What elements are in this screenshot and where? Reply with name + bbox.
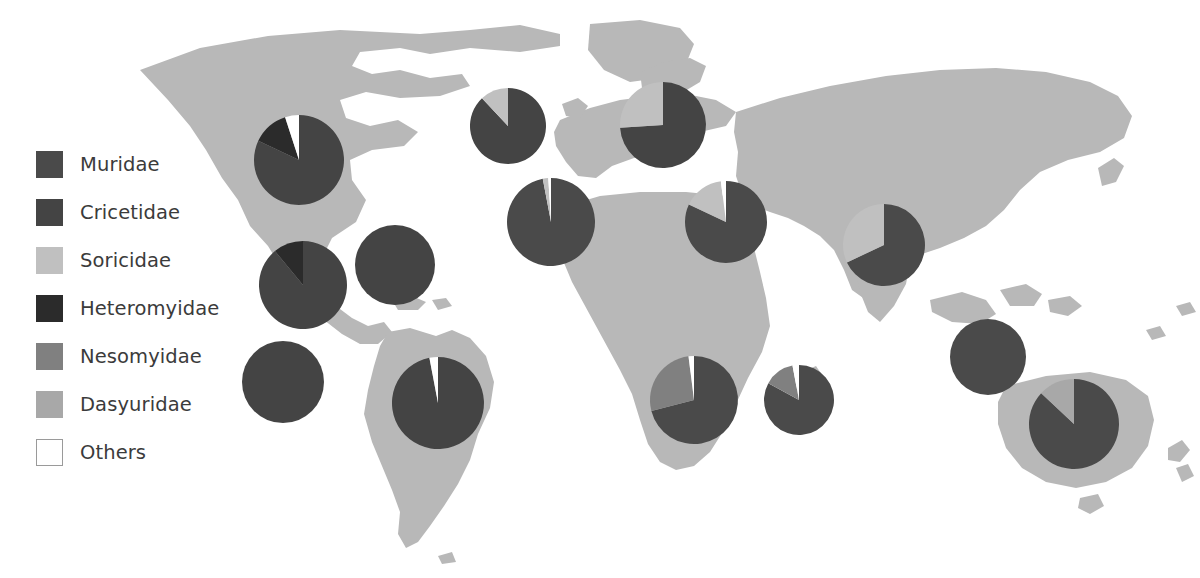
- pie-afrotropic-south[interactable]: [764, 365, 834, 435]
- legend-swatch-icon: [36, 199, 63, 226]
- pie-oceania-island[interactable]: [950, 319, 1026, 395]
- legend-item-nesomyidae[interactable]: Nesomyidae: [36, 332, 246, 380]
- legend-item-label: Cricetidae: [80, 201, 180, 224]
- pie-nearctic-north[interactable]: [254, 115, 344, 205]
- legend-item-label: Dasyuridae: [80, 393, 192, 416]
- figure-canvas: MuridaeCricetidaeSoricidaeHeteromyidaeNe…: [0, 0, 1200, 578]
- legend-swatch-icon: [36, 295, 63, 322]
- pie-neotropic-south[interactable]: [392, 357, 484, 449]
- legend-item-label: Soricidae: [80, 249, 171, 272]
- pie-palearctic-arctic[interactable]: [470, 88, 546, 164]
- pie-afrotropic-west[interactable]: [650, 356, 738, 444]
- pie-slice-muridae: [950, 319, 1026, 395]
- pie-palearctic-mediterranean[interactable]: [507, 178, 595, 266]
- pie-slice-muridae: [507, 178, 595, 266]
- legend-item-label: Others: [80, 441, 146, 464]
- legend-item-dasyuridae[interactable]: Dasyuridae: [36, 380, 246, 428]
- legend-item-label: Heteromyidae: [80, 297, 219, 320]
- pie-palearctic-middle-east[interactable]: [685, 181, 767, 263]
- pie-palearctic-europe[interactable]: [620, 82, 706, 168]
- pie-slice-cricetidae: [470, 88, 546, 164]
- legend-item-heteromyidae[interactable]: Heteromyidae: [36, 284, 246, 332]
- pie-indomalaya[interactable]: [843, 204, 925, 286]
- legend-swatch-icon: [36, 343, 63, 370]
- pie-slice-cricetidae: [355, 225, 435, 305]
- legend-item-others[interactable]: Others: [36, 428, 246, 476]
- legend-swatch-icon: [36, 391, 63, 418]
- legend-swatch-icon: [36, 247, 63, 274]
- family-legend: MuridaeCricetidaeSoricidaeHeteromyidaeNe…: [36, 140, 246, 476]
- legend-item-label: Muridae: [80, 153, 160, 176]
- legend-swatch-icon: [36, 151, 63, 178]
- pie-slice-soricidae: [620, 82, 663, 128]
- pie-neotropic-caribbean[interactable]: [355, 225, 435, 305]
- legend-item-cricetidae[interactable]: Cricetidae: [36, 188, 246, 236]
- pie-neotropic-northwest[interactable]: [242, 341, 324, 423]
- legend-item-muridae[interactable]: Muridae: [36, 140, 246, 188]
- legend-item-label: Nesomyidae: [80, 345, 202, 368]
- pie-australasia[interactable]: [1029, 379, 1119, 469]
- pie-nearctic-southwest[interactable]: [259, 241, 347, 329]
- legend-swatch-icon: [36, 439, 63, 466]
- pie-slice-cricetidae: [242, 341, 324, 423]
- legend-item-soricidae[interactable]: Soricidae: [36, 236, 246, 284]
